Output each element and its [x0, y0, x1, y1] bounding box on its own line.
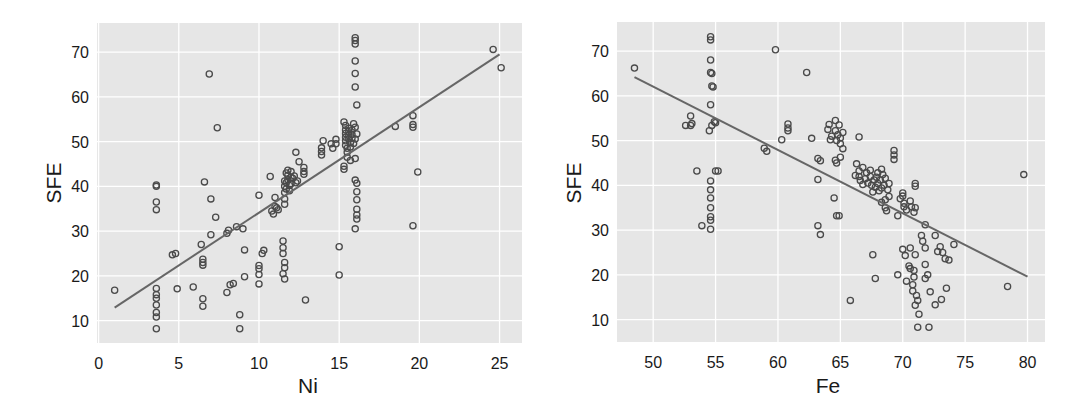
x-tick-label: 10: [250, 355, 268, 372]
x-tick-label: 65: [831, 354, 849, 371]
y-tick-label: 40: [71, 178, 89, 195]
y-tick-label: 10: [71, 313, 89, 330]
y-tick-label: 60: [591, 88, 609, 105]
y-tick-label: 30: [591, 222, 609, 239]
chart-fe-sfe: 5055606570758010203040506070: [591, 22, 1045, 371]
y-tick-label: 20: [71, 268, 89, 285]
x-tick-label: 5: [174, 355, 183, 372]
chart-ni-sfe: 051015202510203040506070: [71, 23, 522, 372]
x-axis-title-ni: Ni: [298, 374, 318, 397]
y-tick-label: 70: [71, 44, 89, 61]
x-tick-label: 75: [956, 354, 974, 371]
y-axis-title-sfe-left: SFE: [42, 163, 65, 204]
x-tick-label: 20: [410, 355, 428, 372]
x-tick-label: 25: [491, 355, 509, 372]
x-axis-title-fe: Fe: [816, 374, 841, 397]
y-tick-label: 20: [591, 267, 609, 284]
y-tick-label: 50: [71, 134, 89, 151]
figure: 051015202510203040506070 505560657075801…: [0, 0, 1085, 409]
x-tick-label: 60: [769, 354, 787, 371]
y-axis-title-sfe-right: SFE: [562, 163, 585, 204]
x-tick-label: 55: [707, 354, 725, 371]
x-tick-label: 70: [894, 354, 912, 371]
x-tick-label: 80: [1019, 354, 1037, 371]
x-tick-label: 0: [94, 355, 103, 372]
y-tick-label: 40: [591, 177, 609, 194]
y-tick-label: 60: [71, 89, 89, 106]
plot-panel: [97, 23, 522, 343]
y-tick-label: 10: [591, 312, 609, 329]
y-tick-label: 30: [71, 223, 89, 240]
scatter-chart-ni: 051015202510203040506070 505560657075801…: [0, 0, 1085, 409]
x-tick-label: 15: [330, 355, 348, 372]
y-tick-label: 70: [591, 43, 609, 60]
y-tick-label: 50: [591, 133, 609, 150]
plot-panel: [617, 22, 1045, 342]
x-tick-label: 50: [644, 354, 662, 371]
